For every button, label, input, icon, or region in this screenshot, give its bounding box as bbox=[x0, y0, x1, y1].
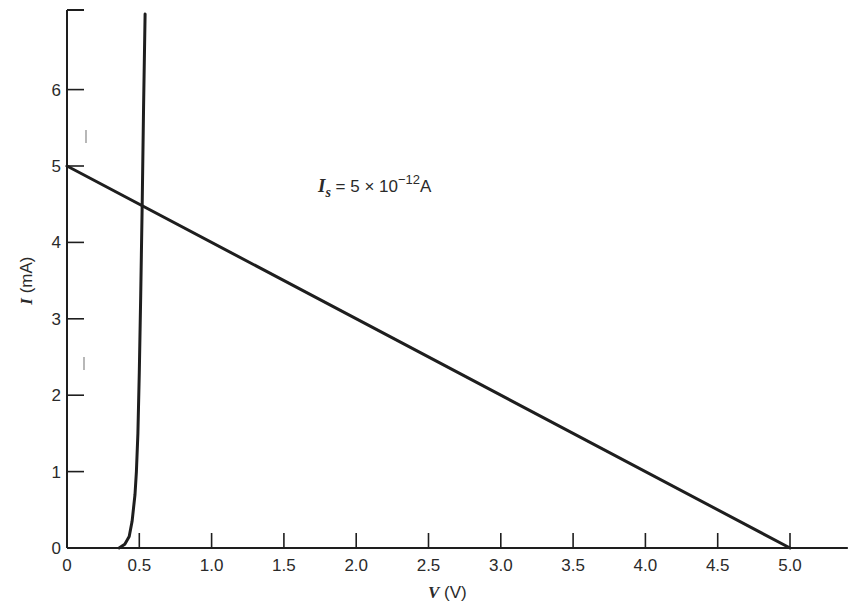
x-tick-label: 2.5 bbox=[417, 556, 441, 575]
y-tick-label: 5 bbox=[52, 157, 61, 176]
labels-layer: 00.51.01.52.02.53.03.54.04.55.00123456V … bbox=[17, 81, 802, 602]
y-tick-label: 0 bbox=[52, 539, 61, 558]
x-tick-label: 1.5 bbox=[272, 556, 296, 575]
iv-chart: 00.51.01.52.02.53.03.54.04.55.00123456V … bbox=[0, 0, 858, 612]
saturation-current-annotation: Is = 5 × 10−12A bbox=[317, 172, 432, 200]
load-line bbox=[67, 166, 790, 548]
y-tick-label: 1 bbox=[52, 463, 61, 482]
x-tick-label: 3.5 bbox=[561, 556, 585, 575]
x-tick-label: 5.0 bbox=[778, 556, 802, 575]
x-tick-label: 4.0 bbox=[634, 556, 658, 575]
y-tick-label: 6 bbox=[52, 81, 61, 100]
x-tick-label: 4.5 bbox=[706, 556, 730, 575]
x-tick-label: 3.0 bbox=[489, 556, 513, 575]
axes bbox=[67, 10, 848, 548]
x-tick-label: 1.0 bbox=[200, 556, 224, 575]
series-layer bbox=[67, 14, 790, 548]
y-axis-label: I (mA) bbox=[17, 257, 36, 306]
y-tick-label: 2 bbox=[52, 386, 61, 405]
x-tick-label: 0.5 bbox=[127, 556, 151, 575]
x-tick-label: 2.0 bbox=[344, 556, 368, 575]
x-tick-label: 0 bbox=[62, 556, 71, 575]
diode-curve bbox=[119, 14, 145, 548]
y-tick-label: 4 bbox=[52, 233, 61, 252]
x-axis-label: V (V) bbox=[428, 583, 467, 602]
y-tick-label: 3 bbox=[52, 310, 61, 329]
